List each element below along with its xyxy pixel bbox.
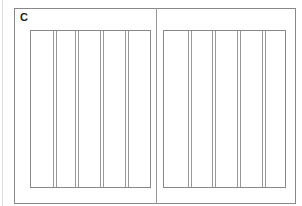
center-divider bbox=[156, 8, 157, 204]
figure-label: C bbox=[20, 11, 28, 23]
vertical-line bbox=[78, 31, 79, 187]
vertical-line bbox=[100, 31, 101, 187]
vertical-line bbox=[75, 31, 76, 187]
vertical-line bbox=[191, 31, 192, 187]
vertical-line bbox=[240, 31, 241, 187]
vertical-line bbox=[262, 31, 263, 187]
right-panel bbox=[163, 30, 286, 188]
vertical-line bbox=[56, 31, 57, 187]
vertical-line bbox=[125, 31, 126, 187]
vertical-line bbox=[215, 31, 216, 187]
vertical-line bbox=[53, 31, 54, 187]
vertical-line bbox=[237, 31, 238, 187]
vertical-line bbox=[103, 31, 104, 187]
vertical-line bbox=[212, 31, 213, 187]
vertical-line bbox=[265, 31, 266, 187]
vertical-line bbox=[188, 31, 189, 187]
vertical-line bbox=[128, 31, 129, 187]
left-panel bbox=[30, 30, 151, 188]
left-edge-line bbox=[2, 0, 3, 206]
